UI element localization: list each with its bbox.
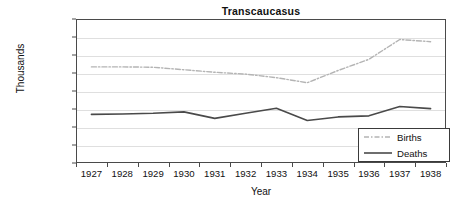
legend-label-births: Births <box>393 132 422 143</box>
legend-item-deaths: Deaths <box>359 145 449 161</box>
x-tick-mark <box>292 163 293 167</box>
series-line-births <box>91 40 430 83</box>
x-tick-mark <box>354 163 355 167</box>
x-axis-label: Year <box>76 186 446 197</box>
x-tick-mark <box>261 163 262 167</box>
x-tick-mark <box>199 163 200 167</box>
x-tick-mark <box>323 163 324 167</box>
legend-swatch-births <box>363 132 393 142</box>
legend-item-births: Births <box>359 129 449 145</box>
x-tick-mark <box>415 163 416 167</box>
x-tick-mark <box>76 163 77 167</box>
chart-legend: Births Deaths <box>358 128 450 162</box>
legend-label-deaths: Deaths <box>393 148 427 159</box>
legend-swatch-deaths <box>363 148 393 158</box>
chart-title: Transcaucasus <box>76 5 446 17</box>
x-tick-mark <box>446 163 447 167</box>
series-line-deaths <box>91 106 430 120</box>
chart-figure: Transcaucasus Thousands Year 05010015020… <box>0 0 469 206</box>
x-tick-mark <box>230 163 231 167</box>
x-tick-mark <box>169 163 170 167</box>
y-axis-label: Thousands <box>15 21 26 117</box>
x-tick-mark <box>384 163 385 167</box>
x-tick-mark <box>107 163 108 167</box>
x-tick-label: 1938 <box>411 168 451 179</box>
x-tick-mark <box>138 163 139 167</box>
